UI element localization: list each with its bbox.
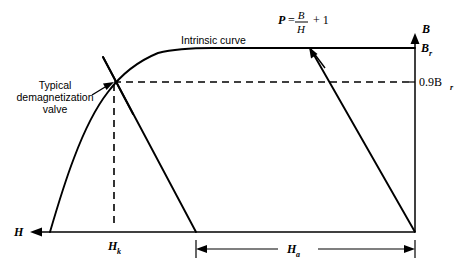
svg-text:+ 1: + 1 [313,13,329,27]
remanence-label: B r [420,41,433,58]
demagnetization-valve-annotation: Typical demagnetization valve [16,79,93,115]
knee-flux-label: 0.9B r [419,75,454,92]
b-axis [411,33,420,232]
h-axis-label: H [13,225,24,239]
svg-text:P: P [278,13,286,27]
svg-text:B: B [420,41,429,55]
demagnetization-diagram: B H B r 0.9B r H k H a Intrinsic curve T… [0,0,459,269]
svg-text:=: = [288,13,295,27]
applied-field-label: H a [286,242,300,259]
permeance-formula: P = B H + 1 [278,9,329,35]
knee-field-label: H k [107,239,121,256]
formula-pointer-arrow [309,47,325,68]
svg-text:Typical: Typical [39,79,72,91]
permeance-line [310,48,415,232]
figure-canvas: B H B r 0.9B r H k H a Intrinsic curve T… [0,0,459,269]
intrinsic-curve-label: Intrinsic curve [181,34,246,46]
b-axis-label: B [421,22,430,36]
svg-text:demagnetization: demagnetization [16,91,93,103]
svg-text:0.9B: 0.9B [419,75,442,89]
svg-text:k: k [117,247,121,256]
intrinsic-curve [50,48,415,232]
svg-text:H: H [296,23,306,35]
svg-text:r: r [450,83,454,92]
svg-text:a: a [296,250,300,259]
svg-text:valve: valve [43,103,68,115]
h-axis [30,228,415,237]
ha-dimension-line [196,240,415,258]
svg-text:B: B [298,9,305,21]
svg-text:r: r [429,49,433,58]
